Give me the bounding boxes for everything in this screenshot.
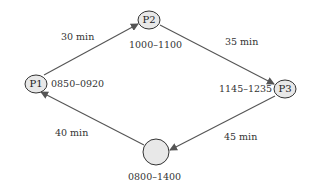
edge-label-p1-p2: 30 min <box>61 32 94 42</box>
p1-time-window: 0850–0920 <box>51 79 104 89</box>
node-p2-label: P2 <box>139 15 159 25</box>
edge-p2-p3 <box>160 25 274 84</box>
node-depot <box>143 139 169 165</box>
edge-label-depot-p1: 40 min <box>55 128 88 138</box>
node-p1-label: P1 <box>26 79 46 89</box>
depot-time-window: 0800–1400 <box>128 172 181 182</box>
p2-time-window: 1000–1100 <box>129 40 182 50</box>
edge-label-p2-p3: 35 min <box>225 37 258 47</box>
node-p3-label: P3 <box>275 84 295 94</box>
edge-label-p3-depot: 45 min <box>224 132 257 142</box>
diagram-canvas <box>0 0 315 190</box>
p3-time-window: 1145–1235 <box>219 84 272 94</box>
edge-p3-depot <box>170 96 275 150</box>
